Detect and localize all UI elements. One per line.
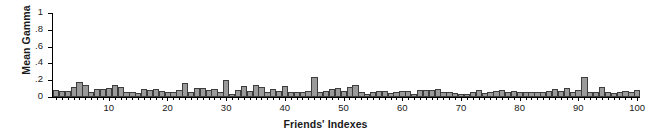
x-tick <box>273 97 274 100</box>
x-tick-label: 50 <box>338 102 349 113</box>
x-tick <box>332 97 333 100</box>
x-tick <box>479 97 480 100</box>
x-tick <box>97 97 98 100</box>
x-tick <box>285 97 286 101</box>
x-tick <box>308 97 309 100</box>
x-tick <box>625 97 626 100</box>
x-tick <box>179 97 180 100</box>
x-tick <box>349 97 350 100</box>
x-tick <box>467 97 468 100</box>
x-tick <box>373 97 374 100</box>
y-tick: 0 <box>48 97 52 98</box>
y-tick-label: .4 <box>35 56 43 67</box>
x-tick <box>121 97 122 100</box>
x-tick <box>191 97 192 100</box>
x-tick <box>572 97 573 100</box>
x-tick <box>261 97 262 100</box>
y-tick: .8 <box>48 30 52 31</box>
x-tick <box>314 97 315 100</box>
x-tick <box>185 97 186 100</box>
x-tick <box>238 97 239 100</box>
x-tick <box>543 97 544 100</box>
x-tick <box>508 97 509 100</box>
x-tick <box>461 97 462 101</box>
x-tick <box>256 97 257 100</box>
x-tick-label: 20 <box>162 102 173 113</box>
y-tick: .4 <box>48 63 52 64</box>
bar-series <box>53 13 640 97</box>
x-tick <box>596 97 597 100</box>
x-tick <box>614 97 615 100</box>
x-tick <box>385 97 386 100</box>
x-tick <box>578 97 579 101</box>
x-tick <box>91 97 92 100</box>
x-tick <box>250 97 251 100</box>
x-tick <box>232 97 233 100</box>
y-tick-label: 1 <box>38 6 43 17</box>
x-tick <box>162 97 163 100</box>
x-tick <box>109 97 110 101</box>
x-tick <box>203 97 204 100</box>
x-tick <box>414 97 415 100</box>
x-tick <box>132 97 133 100</box>
x-tick <box>74 97 75 100</box>
x-tick <box>344 97 345 101</box>
x-tick <box>220 97 221 100</box>
x-tick <box>526 97 527 100</box>
x-tick <box>138 97 139 100</box>
x-tick <box>502 97 503 100</box>
x-tick <box>490 97 491 100</box>
x-tick <box>608 97 609 100</box>
x-tick <box>326 97 327 100</box>
x-tick <box>555 97 556 100</box>
bar <box>634 90 640 97</box>
x-tick <box>361 97 362 100</box>
y-tick: .2 <box>48 80 52 81</box>
x-tick <box>214 97 215 100</box>
y-tick-label: .2 <box>35 73 43 84</box>
x-tick-label: 80 <box>514 102 525 113</box>
x-tick <box>103 97 104 100</box>
x-tick <box>432 97 433 100</box>
x-tick-label: 40 <box>280 102 291 113</box>
x-tick <box>584 97 585 100</box>
x-tick <box>514 97 515 100</box>
x-tick <box>449 97 450 100</box>
x-tick <box>426 97 427 100</box>
x-tick <box>291 97 292 100</box>
chart-figure: Mean Gamma 0.2.4.6.81 102030405060708090… <box>0 0 651 138</box>
x-tick <box>62 97 63 100</box>
x-tick <box>367 97 368 100</box>
x-tick-label: 70 <box>456 102 467 113</box>
x-tick <box>56 97 57 100</box>
x-tick <box>209 97 210 100</box>
x-axis-title: Friends' Indexes <box>0 118 651 130</box>
x-tick <box>590 97 591 100</box>
x-tick <box>150 97 151 100</box>
x-tick <box>173 97 174 100</box>
x-tick <box>420 97 421 100</box>
x-tick <box>408 97 409 100</box>
x-tick <box>279 97 280 100</box>
y-tick-label: .8 <box>35 23 43 34</box>
x-tick <box>379 97 380 100</box>
y-tick: 1 <box>48 13 52 14</box>
x-tick <box>402 97 403 101</box>
x-tick <box>68 97 69 100</box>
x-axis-line <box>52 97 640 98</box>
y-tick-label: 0 <box>38 90 43 101</box>
x-tick <box>484 97 485 100</box>
x-tick <box>156 97 157 100</box>
x-tick <box>302 97 303 100</box>
x-tick <box>619 97 620 100</box>
x-tick <box>531 97 532 100</box>
x-tick <box>391 97 392 100</box>
x-tick <box>437 97 438 100</box>
x-tick <box>455 97 456 100</box>
x-tick <box>355 97 356 100</box>
x-tick <box>549 97 550 100</box>
x-tick <box>473 97 474 100</box>
x-tick-label: 100 <box>629 102 645 113</box>
y-tick-label: .6 <box>35 40 43 51</box>
x-tick <box>567 97 568 100</box>
